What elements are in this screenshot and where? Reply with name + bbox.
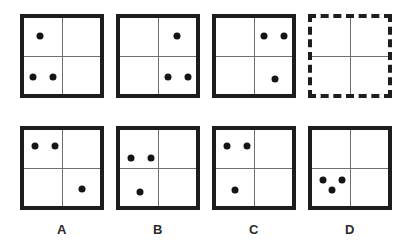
panel-seq-4-answer-slot [308, 14, 392, 98]
panel-option-d[interactable] [308, 126, 392, 210]
dot [174, 33, 181, 40]
dot [244, 143, 251, 150]
grid-horizontal-line [24, 168, 100, 169]
grid-horizontal-line [120, 56, 196, 57]
dot [281, 33, 288, 40]
dot [232, 187, 239, 194]
grid-horizontal-line [120, 168, 196, 169]
dot [224, 143, 231, 150]
panel-option-c[interactable] [212, 126, 296, 210]
dot [37, 33, 44, 40]
option-label-d: D [308, 222, 392, 237]
panel-option-a[interactable] [20, 126, 104, 210]
option-label-a: A [20, 222, 104, 237]
panel-seq-3 [212, 14, 296, 98]
dot [128, 155, 135, 162]
dot [272, 76, 279, 83]
grid-horizontal-line [216, 56, 292, 57]
dot [148, 155, 155, 162]
panel-seq-2 [116, 14, 200, 98]
dot [30, 74, 37, 81]
dot [32, 143, 39, 150]
option-label-b: B [116, 222, 200, 237]
dot [52, 143, 59, 150]
panel-seq-1 [20, 14, 104, 98]
dot [329, 187, 336, 194]
panel-option-b[interactable] [116, 126, 200, 210]
grid-horizontal-line [312, 168, 388, 169]
grid-horizontal-line [312, 56, 388, 57]
grid-horizontal-line [24, 56, 100, 57]
dot [320, 177, 327, 184]
dot [79, 186, 86, 193]
dot [185, 74, 192, 81]
puzzle-canvas: ABCD [0, 0, 408, 246]
dot [50, 74, 57, 81]
grid-horizontal-line [216, 168, 292, 169]
dot [165, 74, 172, 81]
option-label-c: C [212, 222, 296, 237]
dot [137, 189, 144, 196]
dot [339, 177, 346, 184]
dot [261, 33, 268, 40]
